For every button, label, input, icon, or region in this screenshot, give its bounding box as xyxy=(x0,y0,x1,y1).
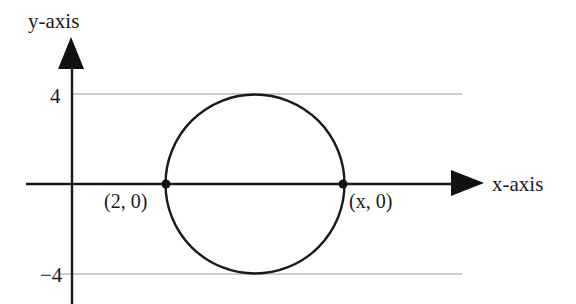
diagram-canvas: y-axis x-axis 4 −4 (2, 0) (x, 0) xyxy=(0,0,576,304)
point-2-0 xyxy=(162,180,171,189)
point-x-0 xyxy=(339,180,348,189)
point-label-2-0: (2, 0) xyxy=(104,190,147,213)
x-axis-label: x-axis xyxy=(492,172,543,196)
x-axis-arrowhead-icon xyxy=(451,170,484,196)
y-axis-arrowhead-icon xyxy=(58,37,84,69)
tick-label-4: 4 xyxy=(50,84,61,108)
y-axis-label: y-axis xyxy=(28,9,79,33)
tick-label-neg4: −4 xyxy=(40,263,63,287)
point-label-x-0: (x, 0) xyxy=(349,190,392,213)
